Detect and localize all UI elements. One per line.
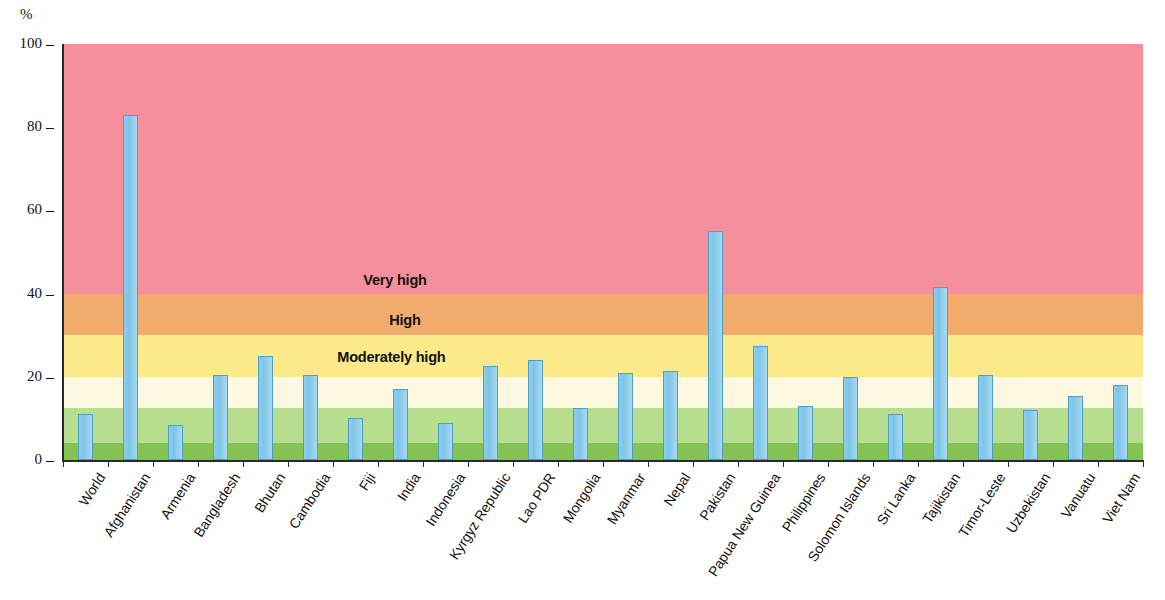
x-axis-label-text: Armenia	[156, 470, 197, 522]
bar	[663, 371, 678, 460]
x-axis-label-text: World	[75, 470, 108, 509]
x-axis-label-text: Nepal	[660, 470, 693, 509]
y-axis-line	[62, 44, 64, 462]
x-tick	[198, 461, 199, 467]
x-tick	[783, 461, 784, 467]
bar	[843, 377, 858, 460]
y-tick-label: 40	[8, 286, 54, 301]
x-axis-label-text: Pakistan	[696, 470, 738, 523]
x-tick	[1143, 461, 1144, 467]
x-tick	[963, 461, 964, 467]
x-tick	[1053, 461, 1054, 467]
x-axis-label: India	[393, 470, 423, 504]
x-tick	[693, 461, 694, 467]
y-tick-dash	[46, 211, 54, 212]
x-tick	[738, 461, 739, 467]
y-tick-label: 0	[8, 452, 54, 467]
x-axis-label-text: Afghanistan	[100, 470, 153, 540]
plot-area: Very highHighModerately high	[63, 44, 1143, 460]
x-axis-label-text: Viet Nam	[1099, 470, 1143, 526]
y-tick-value: 80	[27, 118, 42, 134]
y-tick-dash	[46, 45, 54, 46]
bar	[348, 418, 363, 460]
y-tick-value: 60	[27, 201, 42, 217]
x-axis-label: Pakistan	[696, 470, 738, 523]
bar	[78, 414, 93, 460]
bar	[888, 414, 903, 460]
x-axis-label: Fiji	[355, 470, 378, 493]
x-axis-label: Cambodia	[285, 470, 333, 532]
x-tick	[873, 461, 874, 467]
y-tick-value: 100	[20, 35, 43, 51]
x-axis-label: Bangladesh	[190, 470, 243, 540]
band-caption: Very high	[363, 272, 426, 288]
x-axis-label-text: Uzbekistan	[1002, 470, 1053, 536]
bar	[1068, 396, 1083, 460]
x-axis-label-text: Vanuatu	[1057, 470, 1098, 521]
band-caption: Moderately high	[337, 349, 445, 365]
x-axis-label: Philippines	[778, 470, 828, 535]
x-tick	[378, 461, 379, 467]
x-axis-label-text: Mongolia	[559, 470, 603, 526]
y-tick-value: 0	[35, 451, 43, 467]
x-tick	[243, 461, 244, 467]
bar	[168, 425, 183, 460]
x-axis-label-text: Timor-Leste	[955, 470, 1008, 540]
bar	[978, 375, 993, 460]
bar	[753, 346, 768, 460]
x-tick	[468, 461, 469, 467]
x-axis-label: Vanuatu	[1057, 470, 1098, 521]
bar	[573, 408, 588, 460]
x-tick	[558, 461, 559, 467]
x-tick	[108, 461, 109, 467]
y-tick-label: 100	[8, 36, 54, 51]
x-axis-label: Mongolia	[559, 470, 603, 526]
bar	[708, 231, 723, 460]
x-axis-label: World	[75, 470, 108, 509]
x-axis-label-text: Fiji	[355, 470, 378, 493]
y-tick-dash	[46, 128, 54, 129]
x-tick	[828, 461, 829, 467]
x-axis-label-text: India	[393, 470, 423, 504]
x-tick	[1008, 461, 1009, 467]
y-tick-dash	[46, 295, 54, 296]
x-axis-label-text: Philippines	[778, 470, 828, 535]
x-tick	[63, 461, 64, 467]
bar	[798, 406, 813, 460]
y-tick-label: 60	[8, 202, 54, 217]
bar	[123, 115, 138, 460]
bar	[303, 375, 318, 460]
bar	[618, 373, 633, 460]
x-axis-label: Myanmar	[603, 470, 648, 527]
x-tick	[1098, 461, 1099, 467]
bar	[528, 360, 543, 460]
x-tick	[333, 461, 334, 467]
x-axis-label: Uzbekistan	[1002, 470, 1053, 536]
x-axis-label: Timor-Leste	[955, 470, 1008, 540]
x-axis-label: Lao PDR	[514, 470, 558, 526]
band-very-high	[63, 44, 1143, 294]
x-tick	[603, 461, 604, 467]
y-axis-unit-label: %	[20, 6, 33, 23]
bar	[393, 389, 408, 460]
x-axis-label: Nepal	[660, 470, 693, 509]
x-axis-label-text: Tajikistan	[919, 470, 963, 526]
x-axis-label-text: Indonesia	[422, 470, 468, 529]
x-tick	[153, 461, 154, 467]
x-tick	[288, 461, 289, 467]
x-axis-label: Indonesia	[422, 470, 468, 529]
x-tick	[918, 461, 919, 467]
y-tick-value: 40	[27, 285, 42, 301]
x-axis-label: Tajikistan	[919, 470, 963, 526]
x-axis-label: Armenia	[156, 470, 197, 522]
x-tick	[648, 461, 649, 467]
x-tick	[423, 461, 424, 467]
y-tick-label: 20	[8, 369, 54, 384]
x-axis-label-text: Bangladesh	[190, 470, 243, 540]
x-axis-label-text: Lao PDR	[514, 470, 558, 526]
bar	[438, 423, 453, 460]
bar	[1023, 410, 1038, 460]
bar	[1113, 385, 1128, 460]
x-axis-label: Bhutan	[251, 470, 288, 515]
x-axis-label: Viet Nam	[1099, 470, 1143, 526]
